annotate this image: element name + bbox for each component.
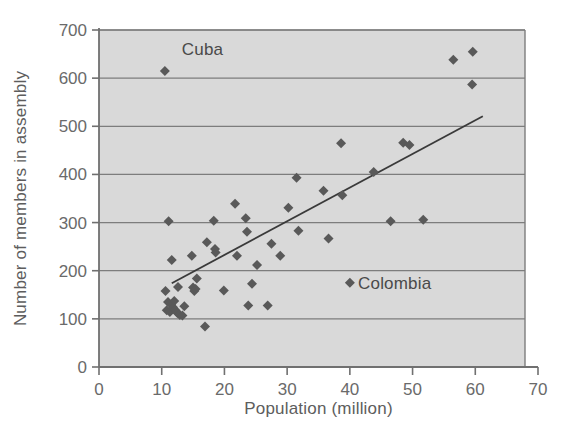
y-tick-label-500: 500 [59, 117, 87, 136]
x-tick-label-60: 60 [466, 380, 485, 399]
x-axis-title: Population (million) [244, 399, 393, 418]
y-tick-label-700: 700 [59, 21, 87, 40]
x-tick-label-30: 30 [278, 380, 297, 399]
y-tick-label-200: 200 [59, 262, 87, 281]
x-tick-label-70: 70 [529, 380, 548, 399]
y-tick-label-0: 0 [78, 358, 87, 377]
x-tick-label-50: 50 [403, 380, 422, 399]
y-axis-title: Number of members in assembly [11, 71, 30, 327]
chart-canvas: 0100200300400500600700010203040506070Cub… [0, 0, 565, 429]
x-tick-label-10: 10 [152, 380, 171, 399]
plot-area-background [99, 30, 525, 367]
y-tick-label-100: 100 [59, 310, 87, 329]
y-tick-label-600: 600 [59, 69, 87, 88]
scatter-plot-figure: 0100200300400500600700010203040506070Cub… [0, 0, 565, 429]
y-tick-label-300: 300 [59, 214, 87, 233]
x-tick-label-0: 0 [94, 380, 103, 399]
x-tick-label-20: 20 [215, 380, 234, 399]
x-tick-label-40: 40 [340, 380, 359, 399]
cuba-label: Cuba [182, 40, 224, 59]
colombia-label: Colombia [358, 274, 432, 293]
y-tick-label-400: 400 [59, 165, 87, 184]
